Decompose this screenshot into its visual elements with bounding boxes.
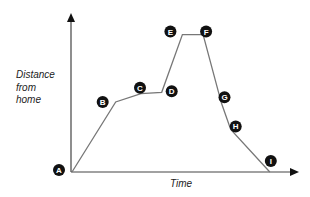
- point-marker-g: G: [219, 91, 231, 103]
- point-marker-b: B: [97, 96, 109, 108]
- svg-text:I: I: [270, 157, 272, 166]
- point-marker-c: C: [134, 82, 146, 94]
- point-marker-d: D: [166, 85, 178, 97]
- distance-time-graph: ABCDEFGHI: [0, 0, 310, 197]
- svg-text:C: C: [137, 84, 143, 93]
- svg-text:G: G: [221, 93, 227, 102]
- svg-text:A: A: [56, 166, 62, 175]
- svg-text:H: H: [233, 122, 239, 131]
- x-axis-arrow-icon: [290, 168, 299, 176]
- y-axis-arrow-icon: [67, 13, 75, 22]
- point-marker-e: E: [164, 26, 176, 38]
- svg-text:E: E: [168, 28, 174, 37]
- point-marker-i: I: [265, 155, 277, 167]
- svg-text:D: D: [169, 87, 175, 96]
- point-marker-f: F: [200, 26, 212, 38]
- point-markers: ABCDEFGHI: [53, 26, 277, 176]
- point-marker-h: H: [230, 120, 242, 132]
- svg-text:B: B: [100, 98, 106, 107]
- svg-text:F: F: [204, 28, 209, 37]
- point-marker-a: A: [53, 164, 65, 176]
